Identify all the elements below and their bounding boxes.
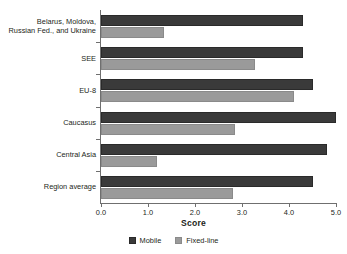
x-tick (148, 203, 149, 207)
bar-fixed-line (101, 156, 157, 167)
y-axis-category-label-line: Belarus, Moldova, (8, 17, 96, 27)
legend-swatch-icon (129, 237, 136, 244)
chart-legend: MobileFixed-line (0, 236, 347, 245)
x-tick-label: 0.0 (96, 208, 106, 217)
y-axis-category-label: EU-8 (79, 86, 96, 96)
y-axis-category-label: Region average (44, 182, 96, 192)
y-tick (96, 107, 101, 108)
x-tick (195, 203, 196, 207)
x-axis-title-text: Score (181, 218, 206, 228)
y-axis-category-label-line: Russian Fed., and Ukraine (8, 26, 96, 36)
x-tick (336, 203, 337, 207)
x-axis-title: Score (0, 218, 347, 228)
bar-mobile (101, 144, 327, 155)
x-tick-label: 4.0 (284, 208, 294, 217)
bar-group (101, 142, 336, 174)
bar-fixed-line (101, 27, 164, 38)
bar-mobile (101, 15, 303, 26)
y-axis-category-label-line: Region average (44, 182, 96, 192)
x-tick-label: 1.0 (143, 208, 153, 217)
x-tick-label: 3.0 (237, 208, 247, 217)
y-axis-category-label: Caucasus (63, 118, 96, 128)
bar-mobile (101, 79, 313, 90)
x-tick-label: 2.0 (190, 208, 200, 217)
x-tick (101, 203, 102, 207)
y-tick (96, 74, 101, 75)
legend-label: Mobile (140, 236, 162, 245)
bar-fixed-line (101, 59, 255, 70)
y-axis-category-label: Belarus, Moldova,Russian Fed., and Ukrai… (8, 17, 96, 36)
bar-group (101, 13, 336, 45)
legend-item[interactable]: Fixed-line (175, 236, 218, 245)
x-tick (289, 203, 290, 207)
y-axis-category-label-line: SEE (81, 54, 96, 64)
bar-mobile (101, 112, 336, 123)
plot-area (101, 10, 336, 203)
y-tick (96, 139, 101, 140)
bar-mobile (101, 47, 303, 58)
bar-chart: Belarus, Moldova,Russian Fed., and Ukrai… (0, 0, 347, 254)
bar-fixed-line (101, 91, 294, 102)
legend-item[interactable]: Mobile (129, 236, 162, 245)
x-tick (242, 203, 243, 207)
bar-fixed-line (101, 188, 233, 199)
y-tick (96, 42, 101, 43)
y-tick (96, 171, 101, 172)
y-axis-category-label-line: Caucasus (63, 118, 96, 128)
bar-group (101, 77, 336, 109)
bar-fixed-line (101, 124, 235, 135)
y-axis-category-label-line: Central Asia (56, 150, 96, 160)
bar-mobile (101, 176, 313, 187)
y-axis-category-label-line: EU-8 (79, 86, 96, 96)
y-axis-category-label: SEE (81, 54, 96, 64)
y-axis-category-label: Central Asia (56, 150, 96, 160)
bar-group (101, 110, 336, 142)
legend-label: Fixed-line (186, 236, 218, 245)
bar-group (101, 45, 336, 77)
bar-group (101, 174, 336, 206)
x-tick-label: 5.0 (331, 208, 341, 217)
legend-swatch-icon (175, 237, 182, 244)
